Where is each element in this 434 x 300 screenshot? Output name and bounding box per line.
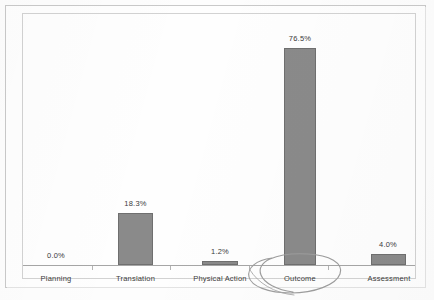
chart-screenshot: 0.0% Planning 18.3% Translation 1.2% Phy… [0,0,434,300]
bar-value-outcome: 76.5% [274,34,326,43]
category-label-assessment: Assessment [355,274,423,283]
bar-assessment[interactable] [371,254,406,265]
category-label-outcome: Outcome [266,274,334,283]
axis-tick [328,266,329,270]
bar-value-planning: 0.0% [30,251,82,260]
category-label-planning: Planning [30,274,82,283]
category-label-physical-action: Physical Action [181,274,259,283]
bar-value-physical-action: 1.2% [194,247,246,256]
bar-physical-action[interactable] [202,261,238,265]
bar-outcome[interactable] [284,48,316,265]
bar-value-assessment: 4.0% [362,240,414,249]
bar-value-translation: 18.3% [109,199,162,208]
chart-plot-area: 0.0% Planning 18.3% Translation 1.2% Phy… [22,13,416,279]
axis-tick [92,266,93,270]
axis-tick [249,266,250,270]
category-label-translation: Translation [104,274,167,283]
category-axis-line [23,265,415,266]
axis-tick [170,266,171,270]
bar-translation[interactable] [118,213,153,265]
